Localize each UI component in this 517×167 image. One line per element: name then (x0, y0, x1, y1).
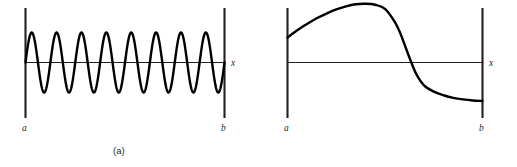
panel-b: x a b (b) (258, 0, 517, 167)
panel-a: x a b (a) (0, 0, 258, 167)
figure-root: x a b (a) x a b (b) (0, 0, 517, 167)
panel-b-plot: x a b (258, 0, 517, 167)
panel-b-right-bound-label: b (479, 123, 484, 133)
panel-b-smooth-curve (288, 4, 483, 101)
panel-b-left-bound-label: a (284, 123, 289, 133)
panel-b-axis-label-x: x (488, 58, 494, 68)
panel-a-plot: x a b (0, 0, 258, 167)
panel-a-caption: (a) (113, 145, 125, 156)
panel-a-axis-label-x: x (230, 58, 236, 68)
panel-a-right-bound-label: b (221, 123, 226, 133)
panel-a-left-bound-label: a (22, 123, 27, 133)
